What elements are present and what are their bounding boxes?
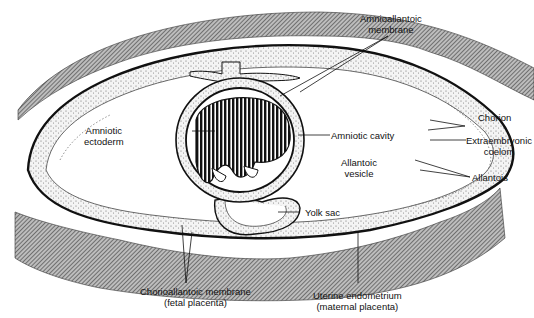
label-yolk-sac: Yolk sac [305, 207, 340, 218]
label-allantoic-vesicle: Allantoic vesicle [341, 157, 377, 179]
label-chorion: Chorion [478, 112, 511, 123]
label-allantois: Allantois [472, 172, 508, 183]
label-chorioallantoic-membrane: Chorioallantoic membrane (fetal placenta… [140, 286, 251, 308]
label-uterine-endometrium: Uterine endometrium (maternal placenta) [313, 290, 402, 312]
label-amniotic-ectoderm: Amniotic ectoderm [84, 125, 124, 147]
diagram-canvas [0, 0, 534, 318]
label-extraembryonic-coelom: Extraembryonic coelom [466, 135, 532, 157]
label-amnioallantoic-membrane: Amnioallantoic membrane [360, 13, 422, 35]
label-amniotic-cavity: Amniotic cavity [331, 130, 394, 141]
